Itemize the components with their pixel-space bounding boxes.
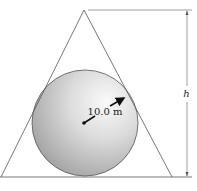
- dimension-arrow-bottom-icon: [186, 172, 189, 177]
- height-label: h: [183, 88, 189, 99]
- radius-label: 10.0 m: [88, 106, 123, 117]
- sphere-in-cone-diagram: h 10.0 m: [0, 0, 197, 191]
- diagram-canvas: h 10.0 m: [0, 0, 197, 191]
- dimension-arrow-top-icon: [186, 11, 189, 16]
